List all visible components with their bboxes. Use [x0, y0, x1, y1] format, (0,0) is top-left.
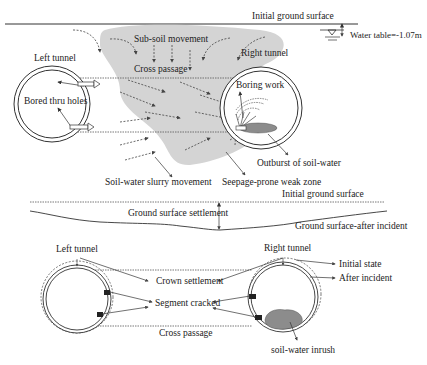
ground-after-incident-label: Ground surface-after incident [295, 221, 408, 231]
slurry-pointer [155, 157, 172, 177]
after-incident-label: After incident [339, 273, 392, 283]
soil-water-inrush-mass [265, 309, 302, 329]
crown-settlement-label: Crown settlement [156, 276, 224, 286]
tunnel-incident-diagram: Initial ground surface Water table=-1.07… [0, 0, 427, 365]
right-tunnel-label-bottom: Right tunnel [264, 243, 312, 253]
weak-zone-label: Seepage-prone weak zone [222, 177, 321, 187]
cross-passage-label-bottom: Cross passage [159, 328, 213, 338]
crack-mark [249, 294, 256, 299]
segment-cracked-label: Segment cracked [155, 298, 220, 308]
boring-work-label: Boring work [236, 80, 285, 90]
right-tunnel-bottom [248, 258, 321, 332]
ground-settlement-label: Ground surface settlement [128, 208, 229, 218]
crack-mark [97, 312, 103, 317]
bored-thru-holes-label: Bored thru holes [24, 96, 88, 106]
left-tunnel-bottom [41, 259, 113, 333]
outburst-label: Outburst of soil-water [257, 158, 342, 168]
cross-passage-label-top: Cross passage [134, 64, 188, 74]
initial-state-label: Initial state [339, 259, 381, 269]
sub-soil-movement-label: Sub-soil movement [134, 34, 209, 44]
left-tunnel-label-top: Left tunnel [34, 53, 76, 63]
initial-ground-surface-label: Initial ground surface [252, 11, 334, 21]
water-table-label: Water table=-1.07m [350, 30, 422, 40]
crack-mark [255, 315, 262, 320]
left-tunnel-label-bottom: Left tunnel [56, 244, 98, 254]
right-tunnel-label-top: Right tunnel [241, 48, 289, 58]
water-table-icon [320, 24, 344, 40]
initial-ground-surface-label-mid: Initial ground surface [282, 189, 364, 199]
slurry-movement-label: Soil-water slurry movement [105, 177, 212, 187]
weak-zone-pointer [226, 152, 245, 175]
crack-mark [104, 290, 110, 295]
soil-water-inrush-label: soil-water inrush [271, 345, 335, 355]
